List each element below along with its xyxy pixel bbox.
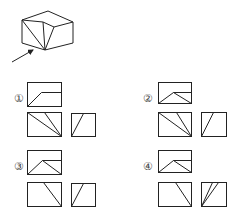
option-4[interactable]: ④: [143, 151, 227, 207]
arrow-line: [12, 50, 33, 62]
view-outline: [202, 183, 227, 207]
view-outline: [159, 183, 192, 207]
view-outline: [72, 114, 96, 137]
view-edge: [28, 93, 62, 107]
view-direction-arrow-icon: [12, 50, 33, 62]
view-outline: [202, 113, 227, 137]
view-edge: [72, 114, 84, 137]
solid-edge: [22, 20, 73, 27]
view-outline: [28, 83, 62, 107]
view-outline: [72, 184, 96, 207]
solid-edge: [43, 22, 45, 50]
top-view: [28, 83, 62, 107]
side-view: [72, 184, 96, 207]
view-edge: [177, 113, 192, 137]
view-edge: [159, 113, 192, 137]
option-label: ①: [14, 92, 24, 105]
view-edge: [45, 113, 62, 137]
front-view: [159, 113, 192, 137]
top-view: [28, 151, 62, 175]
view-outline: [28, 183, 62, 207]
view-edge: [202, 183, 213, 207]
top-view: [159, 83, 192, 104]
view-edge: [202, 183, 219, 207]
3d-solid-figure: [22, 11, 73, 50]
view-edge: [202, 113, 214, 137]
front-view: [28, 113, 62, 137]
solid-edge: [45, 27, 54, 50]
solid-edge: [22, 20, 45, 50]
option-1[interactable]: ①: [14, 83, 96, 137]
side-view: [72, 114, 96, 137]
side-view: [202, 113, 227, 137]
view-edge: [159, 93, 192, 104]
view-edge: [44, 183, 62, 207]
option-label: ③: [14, 160, 24, 173]
diagram-canvas: ①②③④: [0, 0, 237, 224]
option-label: ④: [143, 160, 153, 173]
view-edge: [28, 161, 62, 175]
view-edge: [159, 161, 192, 173]
option-label: ②: [143, 92, 153, 105]
top-view: [159, 151, 192, 173]
view-edge: [72, 184, 84, 207]
front-view: [159, 183, 192, 207]
answer-options: ①②③④: [14, 83, 227, 207]
option-3[interactable]: ③: [14, 151, 96, 207]
side-view: [202, 183, 227, 207]
option-2[interactable]: ②: [143, 83, 227, 137]
view-edge: [176, 183, 192, 207]
view-edge: [28, 113, 62, 137]
front-view: [28, 183, 62, 207]
